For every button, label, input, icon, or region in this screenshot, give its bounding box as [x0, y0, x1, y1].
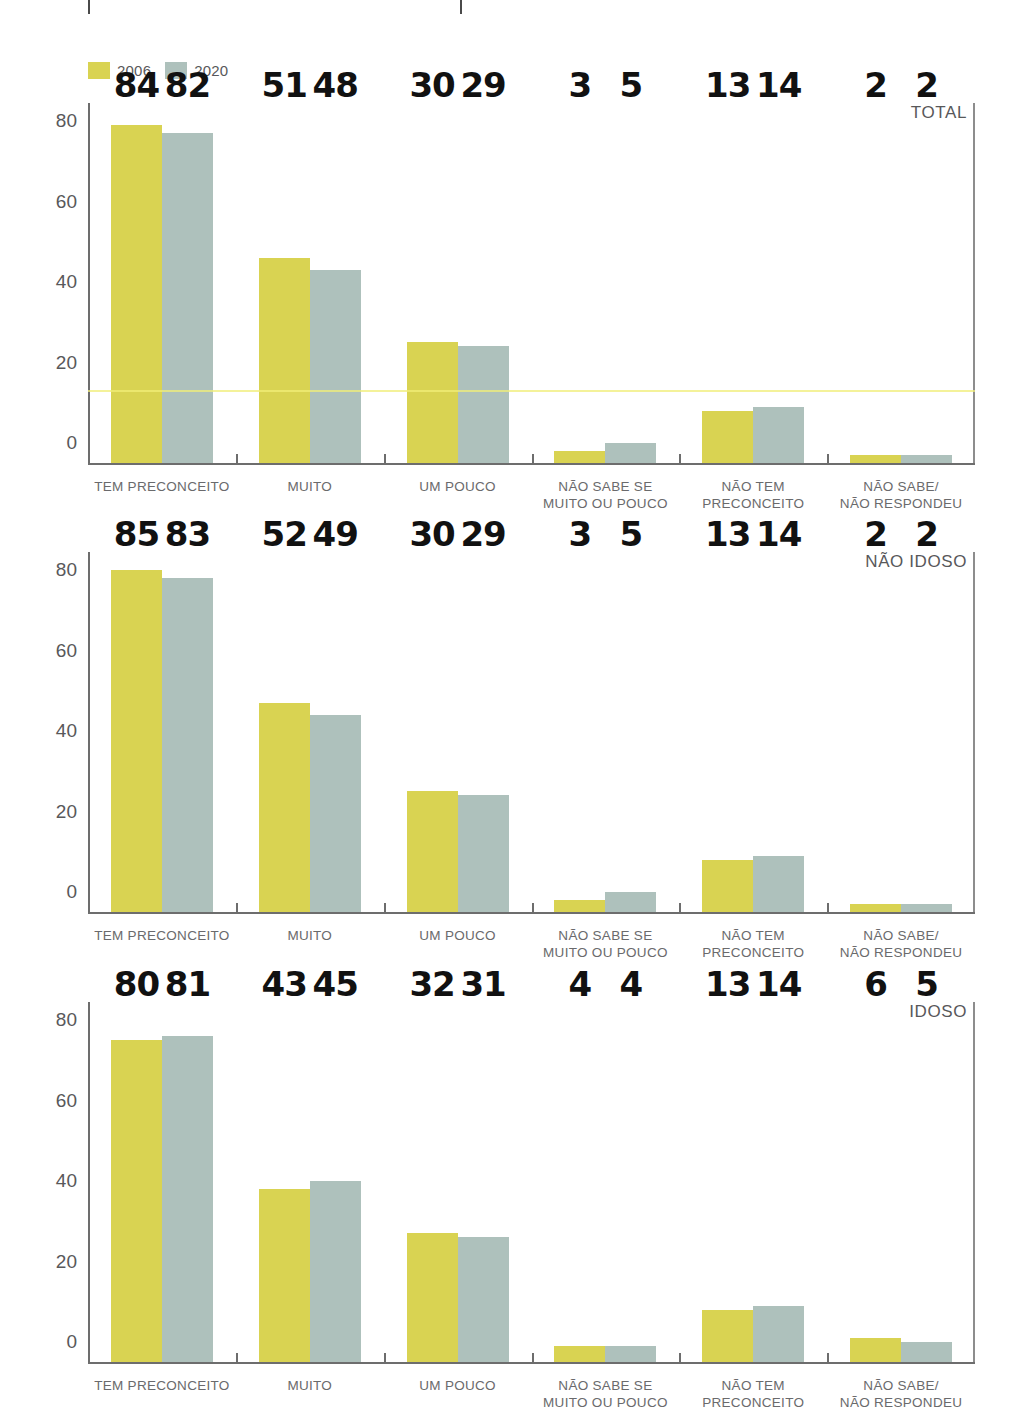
bar-value-label: 30 — [409, 68, 454, 102]
bar-rect[interactable] — [901, 455, 952, 463]
chart-panel: IDOSO02040608080814345323144131465 — [0, 1002, 1029, 1424]
x-axis-tick — [679, 903, 681, 914]
bar-value-label: 81 — [165, 967, 210, 1001]
bar-rect[interactable] — [605, 1346, 656, 1362]
bar-rect[interactable] — [259, 1189, 310, 1362]
plot-right-border — [973, 552, 975, 914]
crop-tick-right — [460, 0, 462, 14]
bar-2020[interactable]: 14 — [753, 550, 804, 912]
bar-2006[interactable]: 3 — [554, 550, 605, 912]
bar-2006[interactable]: 13 — [702, 101, 753, 463]
bar-rect[interactable] — [605, 443, 656, 463]
bar-rect[interactable] — [111, 125, 162, 463]
bar-rect[interactable] — [850, 455, 901, 463]
bar-2006[interactable]: 2 — [850, 550, 901, 912]
bar-2020[interactable]: 82 — [162, 101, 213, 463]
bar-value-label: 51 — [262, 68, 307, 102]
bar-2020[interactable]: 81 — [162, 1000, 213, 1362]
bar-rect[interactable] — [901, 1342, 952, 1362]
bar-2006[interactable]: 30 — [407, 550, 458, 912]
chart-panel: NÃO IDOSO02040608085835249302935131422 — [0, 552, 1029, 974]
bar-2020[interactable]: 2 — [901, 550, 952, 912]
bar-rect[interactable] — [850, 1338, 901, 1362]
bar-2006[interactable]: 13 — [702, 1000, 753, 1362]
bar-rect[interactable] — [753, 856, 804, 912]
plot-area: 02040608085835249302935131422 — [88, 552, 975, 914]
bar-rect[interactable] — [111, 1040, 162, 1362]
bar-2020[interactable]: 14 — [753, 101, 804, 463]
bar-2006[interactable]: 4 — [554, 1000, 605, 1362]
bar-group: 8482 — [111, 101, 213, 463]
x-axis-category-label: NÃO SABE/ NÃO RESPONDEU — [801, 927, 1001, 961]
bar-rect[interactable] — [310, 715, 361, 912]
bar-2020[interactable]: 49 — [310, 550, 361, 912]
bar-2020[interactable]: 5 — [901, 1000, 952, 1362]
bar-value-label: 3 — [569, 517, 592, 551]
bar-rect[interactable] — [162, 133, 213, 463]
bar-2020[interactable]: 14 — [753, 1000, 804, 1362]
bar-2020[interactable]: 29 — [458, 550, 509, 912]
bar-value-label: 5 — [620, 517, 643, 551]
y-axis-tick-label: 20 — [56, 1251, 77, 1273]
bar-rect[interactable] — [259, 703, 310, 912]
bar-2020[interactable]: 29 — [458, 101, 509, 463]
bar-2020[interactable]: 48 — [310, 101, 361, 463]
bar-group: 22 — [850, 550, 952, 912]
bar-value-label: 84 — [114, 68, 159, 102]
bar-2020[interactable]: 45 — [310, 1000, 361, 1362]
bar-rect[interactable] — [850, 904, 901, 912]
bar-2006[interactable]: 43 — [259, 1000, 310, 1362]
bar-rect[interactable] — [554, 451, 605, 463]
bar-2020[interactable]: 2 — [901, 101, 952, 463]
bar-rect[interactable] — [111, 570, 162, 912]
bar-2006[interactable]: 3 — [554, 101, 605, 463]
plot-area: 02040608080814345323144131465 — [88, 1002, 975, 1364]
bar-rect[interactable] — [702, 1310, 753, 1362]
bar-rect[interactable] — [554, 1346, 605, 1362]
bar-2020[interactable]: 5 — [605, 101, 656, 463]
bar-2006[interactable]: 2 — [850, 101, 901, 463]
x-axis-category-label: NÃO SABE/ NÃO RESPONDEU — [801, 478, 1001, 512]
y-axis-tick-label: 40 — [56, 720, 77, 742]
bar-rect[interactable] — [605, 892, 656, 912]
bar-rect[interactable] — [901, 904, 952, 912]
bar-value-label: 2 — [864, 68, 887, 102]
bar-rect[interactable] — [753, 407, 804, 463]
bar-2020[interactable]: 5 — [605, 550, 656, 912]
bar-2006[interactable]: 32 — [407, 1000, 458, 1362]
bar-2006[interactable]: 84 — [111, 101, 162, 463]
bar-rect[interactable] — [310, 1181, 361, 1362]
bar-rect[interactable] — [554, 900, 605, 912]
bar-rect[interactable] — [162, 1036, 213, 1362]
bar-rect[interactable] — [310, 270, 361, 463]
bar-rect[interactable] — [702, 411, 753, 463]
bar-2006[interactable]: 51 — [259, 101, 310, 463]
bar-2006[interactable]: 85 — [111, 550, 162, 912]
bar-2006[interactable]: 30 — [407, 101, 458, 463]
bar-value-label: 43 — [262, 967, 307, 1001]
bar-value-label: 85 — [114, 517, 159, 551]
bar-value-label: 29 — [460, 517, 505, 551]
bar-value-label: 2 — [864, 517, 887, 551]
bar-rect[interactable] — [702, 860, 753, 912]
x-axis-tick — [532, 1353, 534, 1364]
bar-2006[interactable]: 80 — [111, 1000, 162, 1362]
bar-rect[interactable] — [458, 795, 509, 912]
bar-2006[interactable]: 13 — [702, 550, 753, 912]
bar-rect[interactable] — [407, 1233, 458, 1362]
y-axis-line — [88, 552, 90, 914]
bar-rect[interactable] — [753, 1306, 804, 1362]
bar-2020[interactable]: 83 — [162, 550, 213, 912]
bar-rect[interactable] — [407, 791, 458, 912]
bar-2020[interactable]: 31 — [458, 1000, 509, 1362]
y-axis-line — [88, 103, 90, 465]
bar-rect[interactable] — [162, 578, 213, 912]
bar-2006[interactable]: 52 — [259, 550, 310, 912]
bar-rect[interactable] — [407, 342, 458, 463]
bar-rect[interactable] — [458, 346, 509, 463]
bar-2006[interactable]: 6 — [850, 1000, 901, 1362]
bar-value-label: 6 — [864, 967, 887, 1001]
bar-rect[interactable] — [458, 1237, 509, 1362]
bar-2020[interactable]: 4 — [605, 1000, 656, 1362]
bar-rect[interactable] — [259, 258, 310, 463]
